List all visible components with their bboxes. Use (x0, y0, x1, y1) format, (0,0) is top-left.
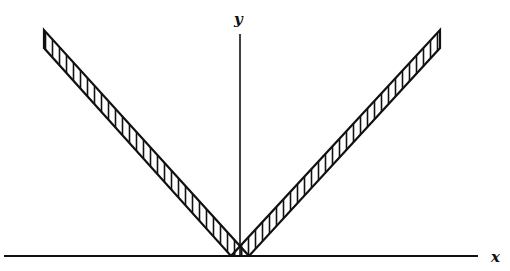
x-axis-label: x (490, 248, 501, 266)
left-band (40, 25, 255, 260)
right-band (228, 25, 444, 260)
v-band-diagram: y x (0, 0, 510, 271)
y-axis-label: y (233, 10, 244, 28)
